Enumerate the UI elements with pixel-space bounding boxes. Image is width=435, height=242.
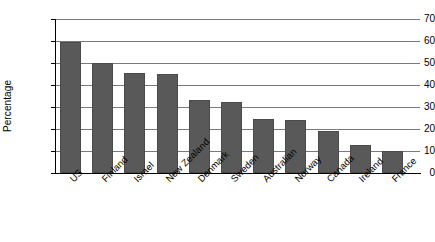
gridline-60	[55, 41, 420, 42]
y-axis-title: Percentage	[2, 56, 13, 156]
y-axis-line	[55, 19, 56, 174]
bar-israel	[124, 73, 145, 173]
bar-chart: Percentage 010203040506070 USFinlandIsra…	[0, 0, 435, 242]
bar-new-zealand	[157, 74, 178, 173]
bar-us	[60, 42, 81, 173]
gridline-70	[55, 19, 420, 20]
plot-area	[55, 19, 420, 173]
bar-finland	[92, 63, 113, 173]
